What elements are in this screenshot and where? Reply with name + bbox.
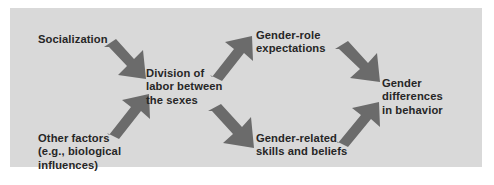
arrow-down-right-icon-socialization-to-division [104,39,146,79]
node-other-factors: Other factors (e.g., biological influenc… [38,132,121,172]
arrow-down-right-icon-gender-role-to-differences [335,41,381,82]
node-gender-role-expectations: Gender-role expectations [256,29,326,56]
node-socialization: Socialization [38,33,108,46]
arrow-down-right-icon-division-to-gender-skills [208,104,254,148]
diagram-canvas: Socialization Other factors (e.g., biolo… [0,0,494,185]
node-gender-differences-in-behavior: Gender differences in behavior [382,77,482,117]
node-gender-related-skills-and-beliefs: Gender-related skills and beliefs [256,132,347,159]
diagram-panel: Socialization Other factors (e.g., biolo… [10,8,482,167]
node-division-of-labor: Division of labor between the sexes [146,67,223,107]
